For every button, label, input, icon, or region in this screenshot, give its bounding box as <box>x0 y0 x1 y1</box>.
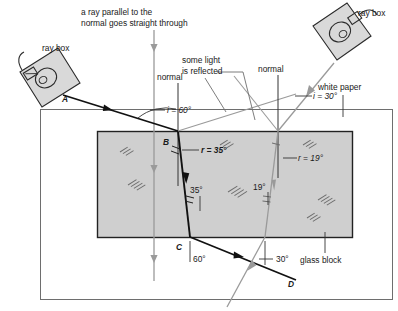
label-ray-box-left: ray box <box>42 43 70 53</box>
label-normal-left: normal <box>157 72 183 82</box>
label-parallel-note-line2: normal goes straight through <box>81 18 188 28</box>
label-ray-box-right: ray box <box>358 8 386 18</box>
label-some-light-line1: some light <box>182 55 221 65</box>
angle-label-i30: i = 30° <box>313 91 338 101</box>
reflected-ray-right <box>234 76 278 131</box>
point-label-a: A <box>61 94 68 104</box>
angle-label-r35: r = 35° <box>201 145 227 155</box>
emergent-ray-right <box>227 237 265 307</box>
diagram-canvas: a ray parallel to the normal goes straig… <box>0 0 398 311</box>
point-label-c: C <box>176 242 183 252</box>
label-normal-right: normal <box>258 64 284 74</box>
angle-label-internal-19: 19° <box>253 182 266 192</box>
angle-label-exit-60: 60° <box>193 254 206 264</box>
label-parallel-note-line1: a ray parallel to the <box>81 7 153 17</box>
label-glass-block: glass block <box>300 255 342 265</box>
label-some-light-line2: is reflected <box>182 66 223 76</box>
leader-reflected-right <box>243 72 255 120</box>
angle-label-internal-35: 35° <box>190 185 203 195</box>
angle-label-i60: i = 60° <box>167 105 192 115</box>
leader-some-light-2 <box>205 78 226 112</box>
incident-ray-left <box>63 95 178 131</box>
point-label-d: D <box>288 279 294 289</box>
angle-label-r19: r = 19° <box>298 153 324 163</box>
point-label-b: B <box>163 137 169 147</box>
angle-label-exit-30: 30° <box>276 254 289 264</box>
refraction-diagram-svg: a ray parallel to the normal goes straig… <box>0 0 398 311</box>
